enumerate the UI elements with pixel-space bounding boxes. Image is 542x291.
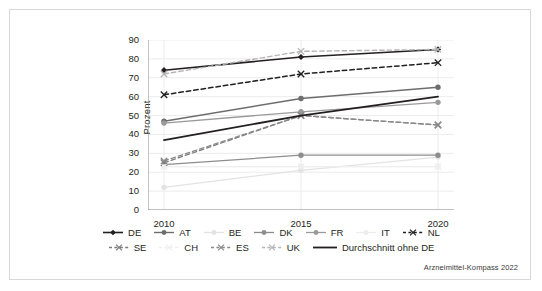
legend-swatch-dashed-x-icon (210, 242, 232, 253)
legend-row: DEATBEDKFRITNL (10, 225, 532, 240)
legend-item-be[interactable]: BE (203, 227, 242, 238)
legend-item-fr[interactable]: FR (305, 227, 344, 238)
legend-label: FR (331, 227, 344, 238)
legend-swatch-solid-circle-icon (253, 227, 275, 238)
legend-row: SECHESUKDurchschnitt ohne DE (10, 240, 532, 255)
legend-swatch-solid-none-icon (312, 242, 338, 253)
legend-swatch-solid-diamond-icon (102, 227, 124, 238)
y-tick-label: 10 (93, 186, 139, 196)
chart-legend: DEATBEDKFRITNLSECHESUKDurchschnitt ohne … (10, 225, 532, 255)
chart-svg (148, 40, 454, 210)
legend-item-uk[interactable]: UK (261, 242, 300, 253)
plot-area: Prozent 0102030405060708090 201020152020 (148, 40, 454, 210)
legend-label: NL (428, 227, 440, 238)
legend-item-at[interactable]: AT (153, 227, 190, 238)
y-tick-label: 30 (93, 149, 139, 159)
legend-item-ch[interactable]: CH (158, 242, 198, 253)
legend-label: IT (381, 227, 389, 238)
chart-figure: Prozent 0102030405060708090 201020152020… (9, 9, 531, 280)
y-tick-label: 0 (93, 205, 139, 215)
legend-swatch-dashed-x-icon (261, 242, 283, 253)
legend-swatch-solid-circle-icon (305, 227, 327, 238)
legend-label: DK (279, 227, 292, 238)
y-tick-label: 20 (93, 167, 139, 177)
legend-swatch-dashed-x-icon (158, 242, 180, 253)
y-tick-label: 70 (93, 73, 139, 83)
legend-label: UK (287, 242, 300, 253)
legend-item-durchschnitt-ohne-de[interactable]: Durchschnitt ohne DE (312, 242, 434, 253)
legend-swatch-solid-circle-icon (153, 227, 175, 238)
legend-swatch-dashed-x-icon (108, 242, 130, 253)
source-note: Arzneimittel-Kompass 2022 (424, 263, 518, 272)
legend-swatch-solid-circle-icon (355, 227, 377, 238)
legend-item-se[interactable]: SE (108, 242, 147, 253)
legend-swatch-dashed-x-icon (402, 227, 424, 238)
legend-swatch-solid-circle-icon (203, 227, 225, 238)
y-tick-label: 40 (93, 130, 139, 140)
y-tick-label: 50 (93, 111, 139, 121)
legend-item-de[interactable]: DE (102, 227, 141, 238)
y-tick-label: 80 (93, 54, 139, 64)
y-tick-label: 90 (93, 35, 139, 45)
legend-item-es[interactable]: ES (210, 242, 249, 253)
legend-label: BE (229, 227, 242, 238)
legend-item-it[interactable]: IT (355, 227, 389, 238)
legend-label: ES (236, 242, 249, 253)
legend-item-nl[interactable]: NL (402, 227, 440, 238)
legend-item-dk[interactable]: DK (253, 227, 292, 238)
y-tick-label: 60 (93, 92, 139, 102)
legend-label: SE (134, 242, 147, 253)
legend-label: Durchschnitt ohne DE (342, 242, 434, 253)
legend-label: DE (128, 227, 141, 238)
legend-label: AT (179, 227, 190, 238)
legend-label: CH (184, 242, 198, 253)
